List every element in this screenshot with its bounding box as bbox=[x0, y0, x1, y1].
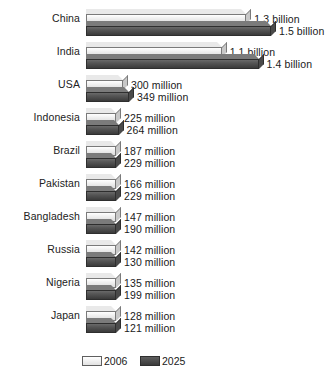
chart-row: USA300 million349 million bbox=[0, 72, 335, 105]
value-label: 199 million bbox=[124, 289, 175, 301]
category-label: Japan bbox=[0, 309, 80, 321]
legend-label: 2025 bbox=[162, 355, 185, 367]
bar-2025 bbox=[86, 224, 116, 234]
bar-2025 bbox=[86, 26, 271, 36]
bar-side-face bbox=[116, 252, 121, 267]
category-label: Bangladesh bbox=[0, 210, 80, 222]
value-label: 229 million bbox=[124, 190, 175, 202]
value-label: 166 million bbox=[124, 178, 175, 190]
category-label: Pakistan bbox=[0, 177, 80, 189]
value-label: 264 million bbox=[127, 124, 178, 136]
chart-legend: 20062025 bbox=[0, 352, 335, 370]
value-label: 187 million bbox=[124, 145, 175, 157]
chart-row: Nigeria135 million199 million bbox=[0, 270, 335, 303]
category-label: Nigeria bbox=[0, 276, 80, 288]
bar-front-face bbox=[86, 224, 116, 234]
bar-side-face bbox=[116, 153, 121, 168]
value-label: 349 million bbox=[137, 91, 188, 103]
value-label: 1.5 billion bbox=[279, 25, 324, 37]
category-label: USA bbox=[0, 78, 80, 90]
chart-row: Japan128 million121 million bbox=[0, 303, 335, 336]
light-swatch bbox=[82, 356, 102, 366]
bar-front-face bbox=[86, 125, 119, 135]
bar-2025 bbox=[86, 290, 116, 300]
bar-front-face bbox=[86, 158, 116, 168]
chart-row: Bangladesh147 million190 million bbox=[0, 204, 335, 237]
value-label: 135 million bbox=[124, 277, 175, 289]
bar-side-face bbox=[129, 87, 134, 102]
bar-front-face bbox=[86, 323, 116, 333]
bar-2025 bbox=[86, 92, 129, 102]
value-label: 147 million bbox=[124, 211, 175, 223]
legend-label: 2006 bbox=[104, 355, 127, 367]
category-label: Indonesia bbox=[0, 111, 80, 123]
legend-item-2006[interactable]: 2006 bbox=[82, 354, 127, 368]
category-label: China bbox=[0, 12, 80, 24]
bar-2025 bbox=[86, 158, 116, 168]
value-label: 121 million bbox=[124, 322, 175, 334]
bar-front-face bbox=[86, 290, 116, 300]
legend-item-2025[interactable]: 2025 bbox=[140, 354, 185, 368]
bar-front-face bbox=[86, 257, 116, 267]
bar-front-face bbox=[86, 59, 259, 69]
bar-2025 bbox=[86, 191, 116, 201]
chart-row: China1.3 billion1.5 billion bbox=[0, 6, 335, 39]
bar-2025 bbox=[86, 59, 259, 69]
category-label: India bbox=[0, 45, 80, 57]
bar-side-face bbox=[116, 318, 121, 333]
value-label: 130 million bbox=[124, 256, 175, 268]
chart-row: Russia142 million130 million bbox=[0, 237, 335, 270]
bar-front-face bbox=[86, 26, 271, 36]
category-label: Brazil bbox=[0, 144, 80, 156]
bar-2025 bbox=[86, 125, 119, 135]
bar-front-face bbox=[86, 92, 129, 102]
bar-side-face bbox=[116, 285, 121, 300]
chart-row: Indonesia225 million264 million bbox=[0, 105, 335, 138]
value-label: 300 million bbox=[131, 79, 182, 91]
value-label: 229 million bbox=[124, 157, 175, 169]
category-label: Russia bbox=[0, 243, 80, 255]
bar-2025 bbox=[86, 323, 116, 333]
bar-side-face bbox=[116, 219, 121, 234]
bar-2025 bbox=[86, 257, 116, 267]
chart-row: Pakistan166 million229 million bbox=[0, 171, 335, 204]
value-label: 225 million bbox=[124, 112, 175, 124]
bar-front-face bbox=[86, 191, 116, 201]
population-bar-chart: China1.3 billion1.5 billionIndia1.1 bill… bbox=[0, 0, 335, 379]
bar-side-face bbox=[116, 186, 121, 201]
bar-side-face bbox=[119, 120, 124, 135]
value-label: 1.4 billion bbox=[267, 58, 312, 70]
value-label: 142 million bbox=[124, 244, 175, 256]
value-label: 128 million bbox=[124, 310, 175, 322]
chart-row: India1.1 billion1.4 billion bbox=[0, 39, 335, 72]
dark-swatch bbox=[140, 356, 160, 366]
chart-row: Brazil187 million229 million bbox=[0, 138, 335, 171]
value-label: 190 million bbox=[124, 223, 175, 235]
